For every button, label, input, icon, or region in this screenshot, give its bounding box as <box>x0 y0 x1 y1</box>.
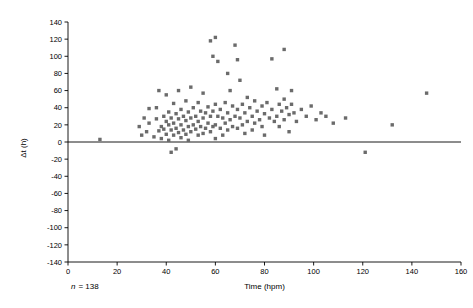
data-point <box>216 60 219 63</box>
data-point <box>290 89 293 92</box>
data-point <box>196 120 199 123</box>
data-point <box>211 55 214 58</box>
x-axis-tick-label: 0 <box>66 267 70 276</box>
data-point <box>140 133 143 136</box>
data-point <box>169 128 172 131</box>
data-point <box>167 123 170 126</box>
data-point <box>179 123 182 126</box>
data-point <box>209 115 212 118</box>
data-point <box>184 99 187 102</box>
data-point <box>295 120 298 123</box>
data-point <box>309 104 312 107</box>
data-point <box>391 123 394 126</box>
data-point <box>160 137 163 140</box>
data-point <box>199 125 202 128</box>
data-point <box>147 107 150 110</box>
data-point <box>142 116 145 119</box>
data-point <box>275 87 278 90</box>
data-point <box>219 108 222 111</box>
data-point <box>169 116 172 119</box>
chart-container: -140-120-100-80-60-40-200204060801001201… <box>0 0 473 308</box>
data-point <box>236 58 239 61</box>
data-point <box>157 89 160 92</box>
data-point <box>285 106 288 109</box>
y-axis-tick-label: -120 <box>47 241 62 250</box>
data-point <box>233 43 236 46</box>
data-point <box>152 135 155 138</box>
data-point <box>201 91 204 94</box>
data-point <box>98 138 101 141</box>
data-point <box>214 36 217 39</box>
data-point <box>226 111 229 114</box>
y-axis-tick-label: 80 <box>54 69 62 78</box>
data-point <box>216 115 219 118</box>
data-point <box>196 101 199 104</box>
data-point <box>177 131 180 134</box>
data-point <box>174 127 177 130</box>
data-point <box>248 106 251 109</box>
data-point <box>265 101 268 104</box>
data-point <box>165 133 168 136</box>
data-point <box>204 127 207 130</box>
data-point <box>280 109 283 112</box>
data-point <box>192 106 195 109</box>
y-axis-tick-label: 20 <box>54 121 62 130</box>
data-point <box>174 147 177 150</box>
data-point <box>324 115 327 118</box>
y-axis-tick-label: 40 <box>54 103 62 112</box>
data-point <box>233 115 236 118</box>
data-point <box>194 115 197 118</box>
data-point <box>187 139 190 142</box>
x-axis-tick-label: 140 <box>406 267 419 276</box>
data-point <box>238 79 241 82</box>
data-point <box>169 151 172 154</box>
data-point <box>273 120 276 123</box>
data-point <box>162 127 165 130</box>
data-point <box>192 123 195 126</box>
data-point <box>172 121 175 124</box>
data-point <box>314 118 317 121</box>
data-point <box>236 127 239 130</box>
data-point <box>226 128 229 131</box>
data-point <box>199 109 202 112</box>
data-point <box>179 108 182 111</box>
data-point <box>228 89 231 92</box>
data-point <box>251 115 254 118</box>
data-point <box>155 117 158 120</box>
data-point <box>263 112 266 115</box>
data-point <box>177 89 180 92</box>
x-axis-title: Time (hpm) <box>244 282 285 291</box>
data-point <box>292 111 295 114</box>
data-point <box>231 104 234 107</box>
data-point <box>189 85 192 88</box>
x-axis-tick-label: 80 <box>260 267 268 276</box>
data-point <box>287 113 290 116</box>
x-axis-tick-label: 100 <box>307 267 320 276</box>
data-point <box>204 111 207 114</box>
x-axis-tick-label: 60 <box>211 267 219 276</box>
data-point <box>206 121 209 124</box>
data-point <box>332 121 335 124</box>
data-point <box>287 130 290 133</box>
data-point <box>253 121 256 124</box>
data-point <box>214 123 217 126</box>
data-point <box>194 127 197 130</box>
data-point <box>228 118 231 121</box>
data-point <box>231 125 234 128</box>
data-point <box>275 115 278 118</box>
data-point <box>278 103 281 106</box>
data-point <box>253 99 256 102</box>
data-point <box>270 108 273 111</box>
data-point <box>179 136 182 139</box>
data-point <box>282 118 285 121</box>
data-point <box>258 118 261 121</box>
data-point <box>201 116 204 119</box>
data-point <box>201 132 204 135</box>
data-point <box>238 116 241 119</box>
y-axis-tick-label: -20 <box>51 155 62 164</box>
data-point <box>167 110 170 113</box>
data-point <box>214 137 217 140</box>
y-axis-title: Δt (h) <box>19 138 28 158</box>
data-point <box>187 125 190 128</box>
data-point <box>305 115 308 118</box>
